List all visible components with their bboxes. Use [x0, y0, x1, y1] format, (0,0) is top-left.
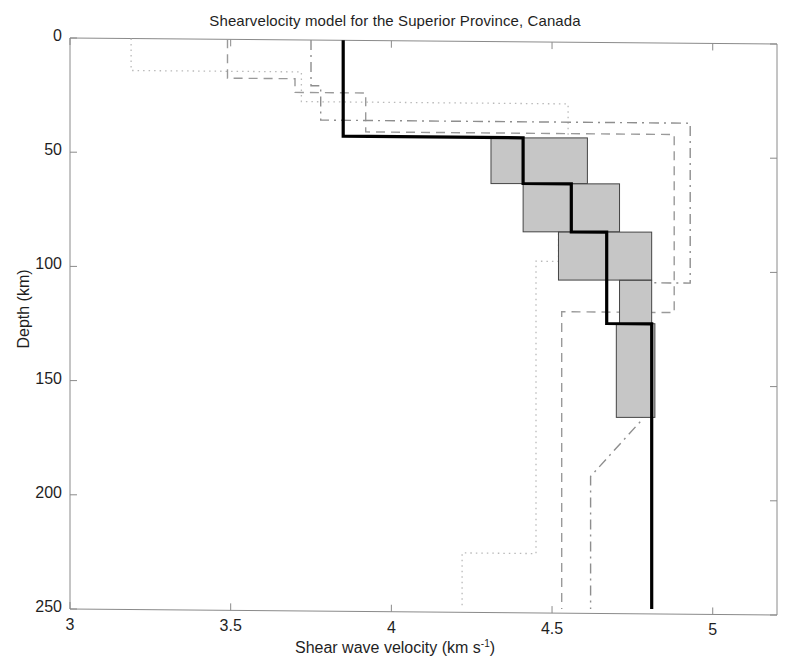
x-axis-label: Shear wave velocity (km s-1) — [0, 638, 790, 657]
uncertainty-box — [620, 280, 652, 323]
reference-curves-group — [131, 39, 690, 614]
chart-figure: Shearvelocity model for the Superior Pro… — [0, 0, 790, 670]
plot-canvas — [0, 0, 790, 670]
y-tick-label: 50 — [14, 141, 62, 159]
y-tick-label: 0 — [14, 27, 62, 45]
series-preferred-model — [343, 40, 652, 614]
uncertainty-box — [491, 138, 587, 184]
uncertainty-boxes-group — [491, 138, 655, 417]
tick-marks-group — [70, 38, 777, 615]
x-tick-label: 3.5 — [201, 617, 261, 635]
preferred-model-curve — [343, 40, 652, 614]
x-axis-label-exponent: -1 — [481, 638, 490, 649]
x-tick-label: 4.5 — [522, 620, 582, 638]
uncertainty-box — [616, 324, 655, 418]
x-axis-label-text: Shear wave velocity (km s — [295, 639, 481, 656]
x-tick-label: 4 — [361, 619, 421, 637]
x-tick-label: 3 — [40, 616, 100, 634]
x-tick-label: 5 — [683, 621, 743, 639]
y-tick-label: 250 — [14, 598, 62, 616]
series-reference-model-dotted — [131, 39, 568, 613]
axes-frame — [70, 38, 777, 615]
series-reference-model-dashed — [228, 39, 675, 613]
y-axis-label: Depth (km) — [15, 249, 33, 369]
y-tick-label: 200 — [14, 484, 62, 502]
x-axis-label-tail: ) — [490, 639, 495, 656]
uncertainty-box — [558, 232, 651, 280]
y-tick-label: 150 — [14, 370, 62, 388]
